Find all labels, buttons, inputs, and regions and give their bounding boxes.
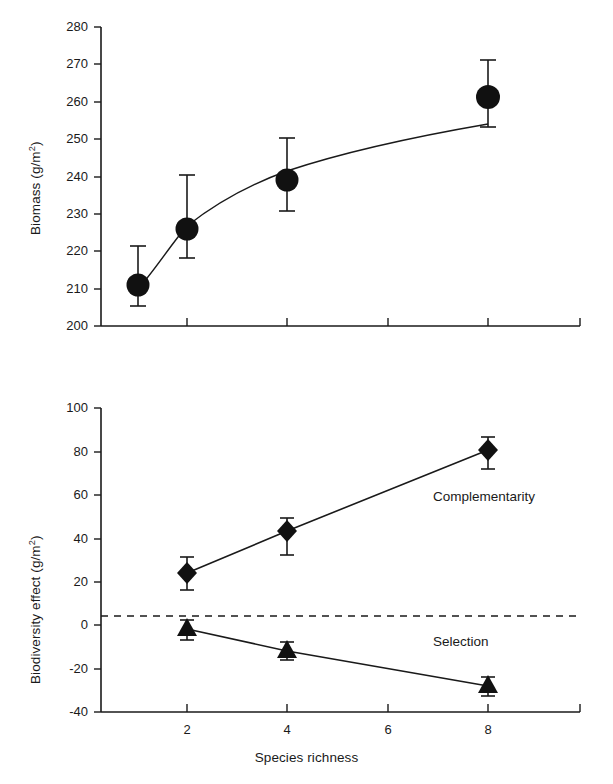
series-annotation-selection: Selection (433, 634, 489, 649)
y-axis-title-exponent: 2 (27, 146, 37, 151)
ytick-label: 230 (40, 206, 88, 221)
series-annotation-complementarity: Complementarity (433, 489, 535, 504)
xtick-label: 2 (167, 722, 207, 737)
xtick-label: 6 (368, 722, 408, 737)
biodiversity-x-ticks (187, 704, 580, 712)
ytick-label: 80 (40, 444, 88, 459)
biomass-x-ticks (187, 318, 580, 326)
y-axis-title-text: Biodiversity effect (g/m (28, 545, 43, 684)
y-axis-title-suffix: ) (28, 141, 43, 146)
biodiversity-axes (101, 408, 580, 712)
ytick-label: 60 (40, 487, 88, 502)
ytick-label: 270 (40, 56, 88, 71)
y-axis-title-biodiversity: Biodiversity effect (g/m2) (28, 535, 43, 684)
biomass-y-ticks (94, 27, 101, 326)
figure-biodiversity-biomass: 280 270 260 250 240 230 220 210 200 Biom… (0, 0, 613, 784)
biomass-plot-svg (0, 0, 613, 392)
data-point-marker (277, 520, 297, 542)
xtick-label: 4 (267, 722, 307, 737)
ytick-label: 210 (40, 281, 88, 296)
panel-biomass: 280 270 260 250 240 230 220 210 200 Biom… (0, 0, 613, 392)
y-axis-title-text: Biomass (g/m (28, 151, 43, 235)
data-point-marker (478, 439, 498, 461)
panel-biodiversity-effect: 100 80 60 40 20 0 -20 -40 2 4 6 8 Biodiv… (0, 392, 613, 784)
biomass-error-bars (130, 60, 496, 306)
y-axis-title-biomass: Biomass (g/m2) (28, 141, 43, 235)
ytick-label: 280 (40, 19, 88, 34)
selection-markers (177, 618, 498, 693)
ytick-label: 40 (40, 531, 88, 546)
data-point-marker (127, 274, 150, 297)
x-axis-title: Species richness (0, 750, 613, 765)
y-axis-title-exponent: 2 (27, 540, 37, 545)
ytick-label: 220 (40, 243, 88, 258)
data-point-marker (177, 562, 197, 584)
biomass-fit-curve (138, 124, 488, 289)
data-point-marker (476, 85, 500, 109)
biomass-data-markers (127, 85, 501, 297)
ytick-label: 260 (40, 94, 88, 109)
biodiversity-y-ticks (94, 408, 101, 712)
ytick-label: 250 (40, 131, 88, 146)
ytick-label: 20 (40, 574, 88, 589)
selection-error-bars (180, 620, 495, 696)
ytick-label: -20 (40, 661, 88, 676)
ytick-label: 100 (40, 400, 88, 415)
ytick-label: 200 (40, 318, 88, 333)
complementarity-line (187, 450, 488, 573)
y-axis-title-suffix: ) (28, 535, 43, 540)
data-point-marker (276, 169, 299, 192)
biomass-axes (101, 27, 580, 326)
complementarity-error-bars (180, 437, 495, 590)
ytick-label: -40 (40, 704, 88, 719)
xtick-label: 8 (468, 722, 508, 737)
ytick-label: 240 (40, 169, 88, 184)
data-point-marker (176, 218, 199, 241)
ytick-label: 0 (40, 617, 88, 632)
